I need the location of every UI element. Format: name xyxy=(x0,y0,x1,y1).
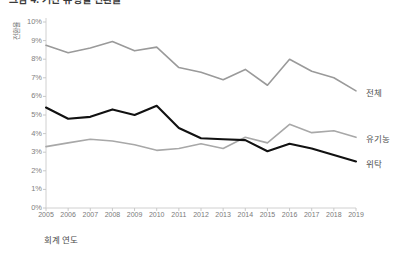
series-label-전체: 전체 xyxy=(366,86,382,98)
chart-title: 그림 4. 기관 유형별 전환율 xyxy=(9,0,122,6)
y-tick-label: 5% xyxy=(12,111,42,119)
y-tick-label: 2% xyxy=(12,167,42,175)
series-label-유기농: 유기농 xyxy=(366,132,390,144)
y-tick-label: 4% xyxy=(12,130,42,138)
y-tick-label: 3% xyxy=(12,148,42,156)
x-axis-tick-labels: 2005200620072008200920102011201220132014… xyxy=(46,211,356,225)
x-axis-title: 회계 연도 xyxy=(44,233,78,245)
chart-container: 그림 4. 기관 유형별 전환율 전환율 0%1%2%3%4%5%6%7%8%9… xyxy=(0,0,403,257)
series-label-위탁: 위탁 xyxy=(366,157,382,169)
y-tick-label: 7% xyxy=(12,74,42,82)
plot-area xyxy=(46,22,356,208)
y-axis-tick-labels: 0%1%2%3%4%5%6%7%8%9%10% xyxy=(8,22,42,208)
x-tick-label: 2019 xyxy=(341,211,371,218)
series-line-전체 xyxy=(46,42,356,91)
y-tick-label: 1% xyxy=(12,186,42,194)
y-tick-label: 10% xyxy=(12,18,42,26)
series-line-위탁 xyxy=(46,106,356,162)
y-tick-label: 8% xyxy=(12,55,42,63)
series-lines xyxy=(46,22,356,208)
y-tick-label: 6% xyxy=(12,93,42,101)
y-tick-label: 9% xyxy=(12,37,42,45)
